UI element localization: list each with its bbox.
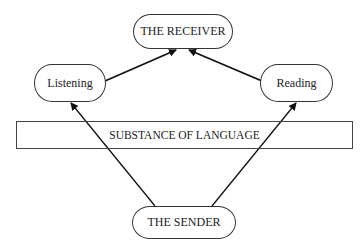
arrow-sender-to-listening <box>71 103 155 206</box>
substance-of-language-band: SUBSTANCE OF LANGUAGE <box>16 121 353 149</box>
reading-node: Reading <box>260 64 333 102</box>
reading-label: Reading <box>277 76 317 91</box>
band-label: SUBSTANCE OF LANGUAGE <box>109 129 260 141</box>
listening-label: Listening <box>47 76 92 91</box>
listening-node: Listening <box>34 64 106 102</box>
arrow-listening-to-receiver <box>105 50 176 81</box>
sender-label: THE SENDER <box>148 215 221 230</box>
arrow-sender-to-reading <box>212 103 296 206</box>
receiver-label: THE RECEIVER <box>141 24 226 39</box>
arrow-reading-to-receiver <box>189 50 262 81</box>
receiver-node: THE RECEIVER <box>133 14 233 49</box>
sender-node: THE SENDER <box>132 206 236 239</box>
